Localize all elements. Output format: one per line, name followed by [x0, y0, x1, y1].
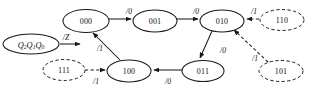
state-label-111: 111: [58, 66, 70, 75]
transition-111-100-label: /1: [92, 77, 99, 86]
state-variable-node: Q2Q1Q0: [3, 34, 59, 54]
output-arrow: /Z: [60, 33, 80, 45]
transition-000-001: /0: [109, 7, 132, 20]
state-node-000[interactable]: 000: [63, 10, 109, 33]
state-node-011[interactable]: 011: [182, 61, 224, 82]
transition-000-001-label: /0: [125, 7, 132, 16]
state-label-010: 010: [216, 17, 229, 26]
transition-111-100: /1: [85, 70, 105, 86]
state-node-111[interactable]: 111: [43, 60, 85, 81]
state-label-001: 001: [149, 17, 162, 26]
transition-010-011: /0: [200, 31, 226, 58]
transition-101-010-line: [234, 30, 268, 62]
transition-100-000: /1: [93, 33, 120, 60]
state-label-100: 100: [123, 67, 136, 76]
transition-011-100-label: /0: [164, 77, 171, 86]
transition-101-010: /1: [234, 30, 268, 63]
transition-101-010-label: /1: [251, 54, 258, 63]
state-node-100[interactable]: 100: [107, 60, 151, 82]
transition-011-100: /0: [154, 70, 182, 86]
state-label-110: 110: [276, 16, 288, 25]
state-label-101: 101: [275, 67, 288, 76]
state-variable-label: Q2Q1Q0: [18, 40, 45, 50]
state-node-010[interactable]: 010: [200, 10, 244, 32]
output-arrow-label: /Z: [62, 33, 70, 42]
transition-110-010: /1: [247, 7, 259, 20]
state-diagram-canvas: Q2Q1Q0 /Z /0 /0 /1 /0: [0, 0, 309, 89]
state-node-110[interactable]: 110: [260, 10, 304, 31]
transition-001-010: /0: [177, 7, 199, 20]
transition-010-011-line: [200, 31, 212, 58]
state-node-101[interactable]: 101: [259, 61, 303, 82]
state-node-001[interactable]: 001: [133, 10, 177, 32]
transition-110-010-label: /1: [250, 7, 257, 16]
transition-100-000-label: /1: [96, 44, 103, 53]
transition-010-011-label: /0: [219, 46, 226, 55]
state-diagram-svg: Q2Q1Q0 /Z /0 /0 /1 /0: [0, 0, 309, 89]
state-label-000: 000: [80, 17, 93, 26]
state-label-011: 011: [197, 67, 209, 76]
transition-001-010-label: /0: [192, 7, 199, 16]
